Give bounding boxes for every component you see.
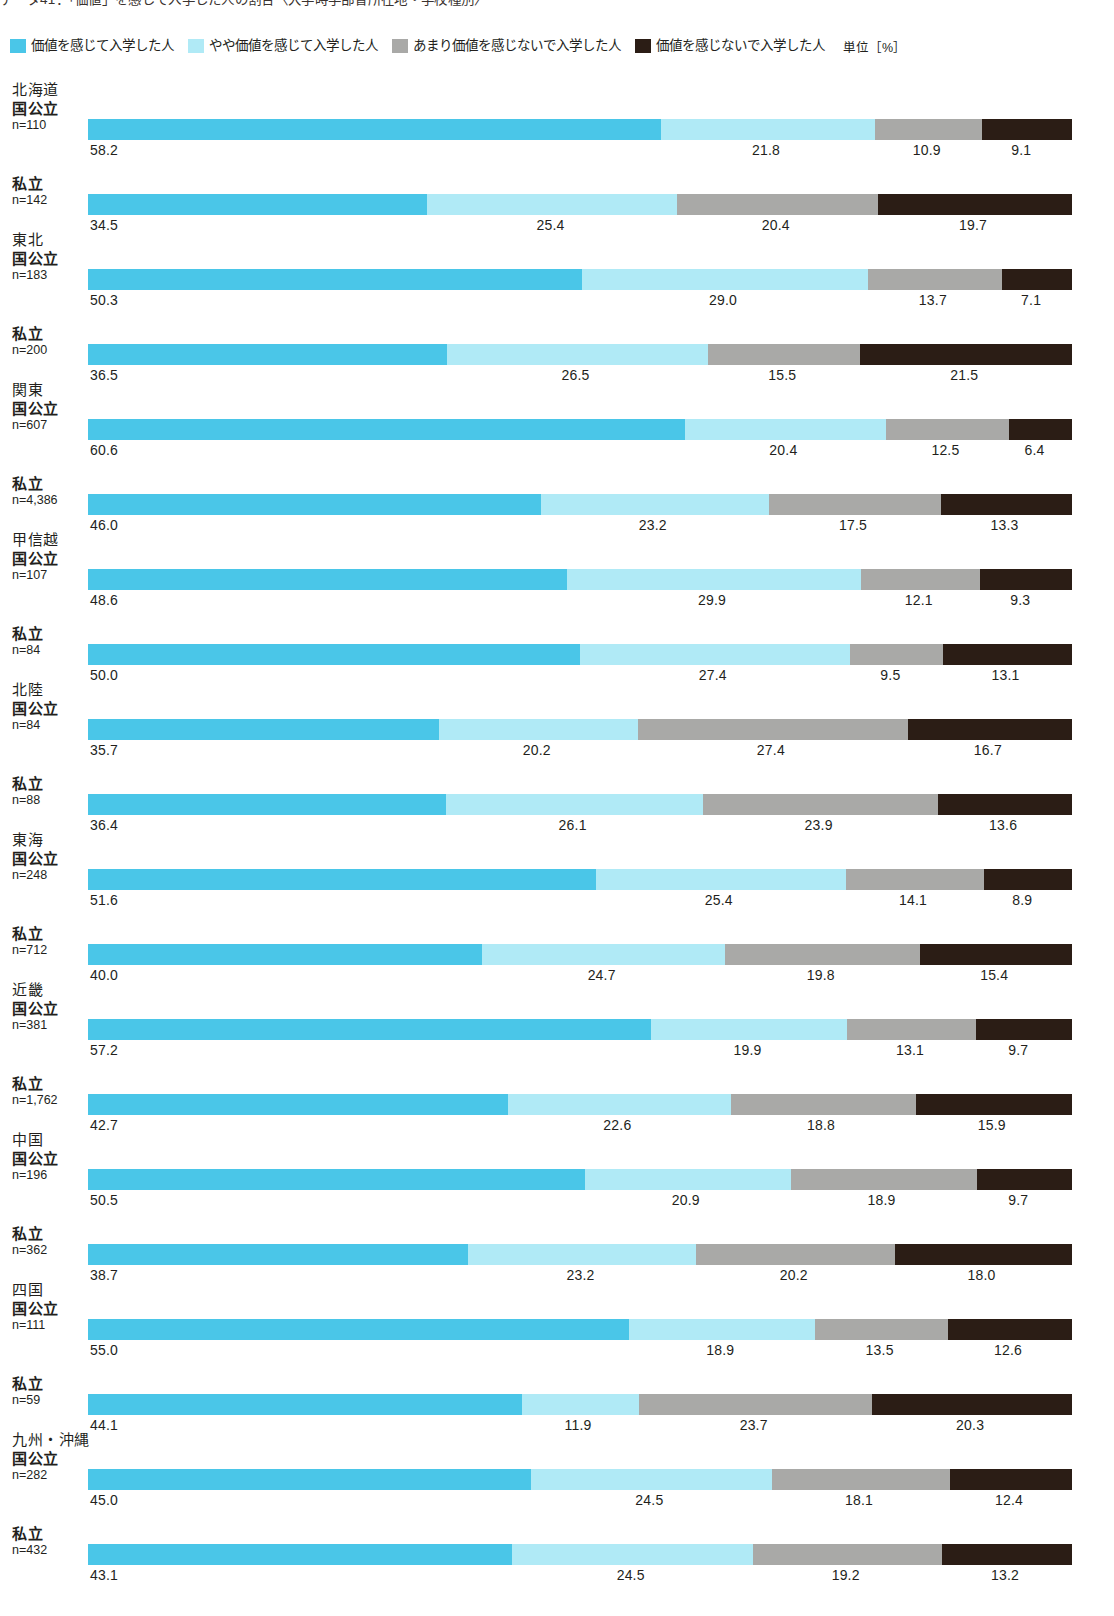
sample-size-label: n=142: [12, 192, 86, 208]
value-label: 20.2: [523, 742, 551, 758]
row-label-group: 私立n=1,762: [12, 1075, 86, 1108]
school-type-label: 国公立: [12, 250, 86, 267]
bar-segment-価値を感じて入学した人: [88, 569, 567, 590]
bar-container: 60.620.412.56.4: [88, 419, 1072, 462]
school-type-label: 私立: [12, 1525, 86, 1542]
legend-label: やや価値を感じて入学した人: [209, 39, 378, 53]
value-label: 12.5: [931, 442, 959, 458]
sample-size-label: n=200: [12, 342, 86, 358]
bar-segment-価値を感じて入学した人: [88, 1319, 629, 1340]
school-type-label: 私立: [12, 1225, 86, 1242]
value-label: 60.6: [90, 442, 118, 458]
bar-segment-価値を感じないで入学した人: [1009, 419, 1072, 440]
stacked-bar: [88, 1169, 1072, 1190]
school-type-label: 国公立: [12, 1000, 86, 1017]
school-type-label: 国公立: [12, 400, 86, 417]
legend-swatch-somewhat-felt-value-icon: [188, 39, 204, 53]
sample-size-label: n=432: [12, 1542, 86, 1558]
school-type-label: 国公立: [12, 100, 86, 117]
sample-size-label: n=362: [12, 1242, 86, 1258]
sample-size-label: n=4,386: [12, 492, 86, 508]
value-label: 12.4: [995, 1492, 1023, 1508]
value-label: 18.1: [845, 1492, 873, 1508]
value-label: 57.2: [90, 1042, 118, 1058]
value-label: 18.9: [868, 1192, 896, 1208]
school-type-label: 国公立: [12, 1300, 86, 1317]
bar-segment-価値を感じて入学した人: [88, 494, 541, 515]
stacked-bar: [88, 569, 1072, 590]
region-block: 東海国公立n=24851.625.414.18.9私立n=71240.024.7…: [0, 828, 1114, 978]
bar-segment-やや価値を感じて入学した人: [585, 1169, 791, 1190]
region-label: 東海: [12, 828, 43, 849]
value-label: 25.4: [705, 892, 733, 908]
value-label: 13.7: [919, 292, 947, 308]
bar-container: 50.520.918.99.7: [88, 1169, 1072, 1212]
value-label: 9.3: [1010, 592, 1030, 608]
stacked-bar: [88, 269, 1072, 290]
stacked-bar: [88, 1244, 1072, 1265]
bar-container: 51.625.414.18.9: [88, 869, 1072, 912]
value-label: 55.0: [90, 1342, 118, 1358]
stacked-bar: [88, 494, 1072, 515]
bar-segment-価値を感じないで入学した人: [977, 1169, 1072, 1190]
sample-size-label: n=1,762: [12, 1092, 86, 1108]
sample-size-label: n=110: [12, 117, 86, 133]
bar-segment-価値を感じないで入学した人: [920, 944, 1072, 965]
chart-row: 国公立n=24851.625.414.18.9: [0, 850, 1114, 925]
value-label-row: 60.620.412.56.4: [88, 440, 1072, 462]
chart-row: 国公立n=38157.219.913.19.7: [0, 1000, 1114, 1075]
value-label: 18.9: [706, 1342, 734, 1358]
value-label-row: 57.219.913.19.7: [88, 1040, 1072, 1062]
stacked-bar: [88, 719, 1072, 740]
bar-segment-価値を感じて入学した人: [88, 1469, 531, 1490]
value-label-row: 35.720.227.416.7: [88, 740, 1072, 762]
bar-segment-あまり価値を感じないで入学した人: [850, 644, 943, 665]
bar-segment-やや価値を感じて入学した人: [427, 194, 677, 215]
chart-row: 国公立n=11155.018.913.512.6: [0, 1300, 1114, 1375]
school-type-label: 私立: [12, 775, 86, 792]
bar-segment-あまり価値を感じないで入学した人: [861, 569, 980, 590]
bar-segment-やや価値を感じて入学した人: [468, 1244, 696, 1265]
value-label: 14.1: [899, 892, 927, 908]
bar-segment-価値を感じないで入学した人: [982, 119, 1072, 140]
bar-segment-あまり価値を感じないで入学した人: [886, 419, 1009, 440]
bar-segment-価値を感じないで入学した人: [895, 1244, 1072, 1265]
bar-segment-あまり価値を感じないで入学した人: [753, 1544, 942, 1565]
sample-size-label: n=84: [12, 642, 86, 658]
chart-row: 国公立n=18350.329.013.77.1: [0, 250, 1114, 325]
bar-segment-あまり価値を感じないで入学した人: [731, 1094, 916, 1115]
bar-container: 35.720.227.416.7: [88, 719, 1072, 762]
bar-segment-あまり価値を感じないで入学した人: [791, 1169, 977, 1190]
bar-segment-価値を感じないで入学した人: [908, 719, 1072, 740]
value-label: 58.2: [90, 142, 118, 158]
row-label-group: 国公立n=107: [12, 550, 86, 583]
stacked-bar: [88, 194, 1072, 215]
bar-container: 43.124.519.213.2: [88, 1544, 1072, 1587]
bar-segment-あまり価値を感じないで入学した人: [875, 119, 982, 140]
bar-segment-価値を感じないで入学した人: [984, 869, 1072, 890]
value-label: 8.9: [1012, 892, 1032, 908]
region-label: 北海道: [12, 78, 59, 99]
bar-segment-やや価値を感じて入学した人: [629, 1319, 815, 1340]
sample-size-label: n=84: [12, 717, 86, 733]
value-label: 20.9: [672, 1192, 700, 1208]
stacked-bar: [88, 1469, 1072, 1490]
bar-segment-価値を感じて入学した人: [88, 869, 596, 890]
chart-title-strip: データ41：「価値」を感じて入学した人の割合〈大学時学部省所在地・学校種別〉: [0, 0, 1114, 9]
value-label: 19.2: [832, 1567, 860, 1583]
row-label-group: 私立n=200: [12, 325, 86, 358]
bar-segment-価値を感じて入学した人: [88, 1544, 512, 1565]
region-label: 東北: [12, 228, 43, 249]
bar-segment-価値を感じないで入学した人: [860, 344, 1072, 365]
sample-size-label: n=607: [12, 417, 86, 433]
value-label: 35.7: [90, 742, 118, 758]
row-label-group: 国公立n=111: [12, 1300, 86, 1333]
bar-segment-やや価値を感じて入学した人: [651, 1019, 847, 1040]
row-label-group: 国公立n=248: [12, 850, 86, 883]
bar-segment-価値を感じて入学した人: [88, 344, 447, 365]
row-label-group: 国公立n=84: [12, 700, 86, 733]
bar-segment-価値を感じないで入学した人: [938, 794, 1072, 815]
bar-segment-価値を感じて入学した人: [88, 719, 439, 740]
region-block: 甲信越国公立n=10748.629.912.19.3私立n=8450.027.4…: [0, 528, 1114, 678]
value-label: 24.5: [617, 1567, 645, 1583]
